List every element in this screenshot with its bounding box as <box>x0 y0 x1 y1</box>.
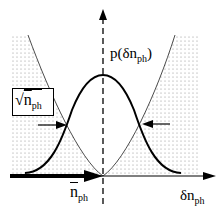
axis-label-sub: ph <box>195 195 205 206</box>
mean-label: nph <box>70 184 88 200</box>
mean-label-sub: ph <box>78 192 88 203</box>
distribution-label: p(δnph) <box>110 46 152 61</box>
mean-label-main: n <box>70 183 78 200</box>
sqrt-radicand: nph <box>24 89 42 108</box>
sqrt-n: n <box>24 91 32 108</box>
distribution-label-close: ) <box>147 45 152 61</box>
width-label: √nph <box>15 92 42 108</box>
horizontal-axis-arrowhead <box>203 172 216 180</box>
distribution-label-sub: ph <box>137 53 147 64</box>
axis-label: δnph <box>180 188 205 203</box>
vertical-axis-arrowhead <box>99 9 107 20</box>
sqrt-symbol: √ <box>15 91 24 108</box>
width-label-box: √nph <box>12 88 54 116</box>
axis-label-main: δn <box>180 187 195 203</box>
distribution-label-main: p(δn <box>110 45 137 61</box>
sqrt-sub: ph <box>32 100 42 111</box>
